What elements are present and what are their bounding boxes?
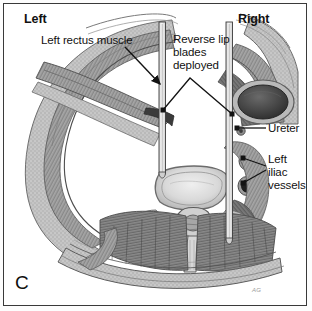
artist-signature: AG [252,287,261,293]
annotation-ureter: Ureter [268,122,299,135]
panel-letter: C [15,272,29,294]
leader-reverse-lip-blades [161,78,235,117]
leader-ureter [235,126,267,131]
leader-left-rectus [125,47,160,84]
leader-iliac-vessels [241,156,267,186]
annotation-reverse-lip-blades-deployed: Reverse lip blades deployed [173,33,229,72]
annotation-left-rectus-muscle: Left rectus muscle [41,34,133,47]
medical-illustration-figure: Left Right Left rectus muscle Reverse li… [0,0,312,311]
orientation-label-right: Right [238,12,269,26]
annotation-left-iliac-vessels: Left iliac vessels [268,153,306,192]
orientation-label-left: Left [24,12,47,26]
